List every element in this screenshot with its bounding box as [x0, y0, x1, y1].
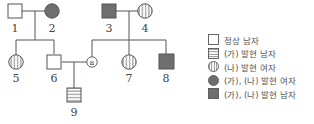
legend-label: (가) 발현 남자	[224, 47, 276, 59]
filled-circle-icon	[208, 75, 219, 86]
label-9: 9	[71, 106, 78, 119]
normal-male-icon	[8, 4, 22, 18]
individual-8: 8	[159, 54, 174, 85]
horizontal-striped-square-icon	[208, 48, 219, 59]
label-2: 2	[49, 22, 56, 35]
filled-square-icon	[208, 88, 219, 99]
legend-item-both-female: (가), (나) 발현 여자	[208, 74, 296, 88]
individual-5: 5	[9, 55, 23, 85]
legend-item-a-male: (가) 발현 남자	[208, 47, 296, 61]
label-a: a	[90, 58, 95, 67]
label-7: 7	[126, 72, 133, 85]
affected-b-female-icon	[138, 4, 152, 18]
label-6: 6	[51, 72, 58, 85]
individual-6: 6	[47, 55, 61, 85]
affected-both-female-icon	[45, 4, 59, 18]
affected-both-male-icon	[159, 54, 174, 69]
individual-3: 3	[102, 4, 116, 35]
affected-b-female-icon	[9, 55, 23, 69]
label-3: 3	[106, 22, 113, 35]
legend-item-b-female: (나) 발현 여자	[208, 60, 296, 74]
affected-b-female-icon	[122, 55, 136, 69]
individual-9: 9	[67, 88, 81, 119]
empty-square-icon	[208, 34, 219, 45]
legend-item-normal-male: 정상 남자	[208, 33, 296, 47]
individual-1: 1	[8, 4, 22, 35]
legend-label: (가), (나) 발현 여자	[224, 74, 296, 86]
legend: 정상 남자 (가) 발현 남자 (나) 발현 여자 (가), (나) 발현 여자…	[208, 33, 296, 101]
label-1: 1	[12, 22, 19, 35]
individual-4: 4	[138, 4, 152, 35]
normal-male-icon	[47, 55, 61, 69]
label-4: 4	[142, 22, 149, 35]
vertical-striped-circle-icon	[208, 61, 219, 72]
individual-2: 2	[45, 4, 59, 35]
individual-a: a	[87, 57, 97, 67]
legend-label: (나) 발현 여자	[224, 61, 276, 73]
legend-label: 정상 남자	[224, 34, 259, 46]
individual-7: 7	[122, 55, 136, 85]
legend-item-both-male: (가), (나) 발현 남자	[208, 87, 296, 101]
affected-both-male-icon	[102, 4, 116, 18]
legend-label: (가), (나) 발현 남자	[224, 88, 296, 100]
label-5: 5	[13, 72, 20, 85]
affected-a-male-icon	[67, 88, 81, 102]
label-8: 8	[163, 72, 170, 85]
